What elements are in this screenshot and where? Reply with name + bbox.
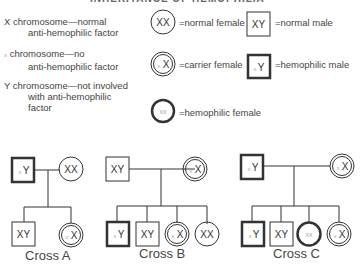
svg-text:XY: XY [252,19,266,30]
svg-text:x: x [249,233,252,239]
cross-c-son-hemophilic-male-icon: x Y [242,222,264,246]
svg-text:Y: Y [23,165,30,176]
svg-text:xx: xx [160,108,168,115]
svg-text:x: x [254,66,257,72]
svg-text:x: x [190,168,193,174]
legend-normal-female-icon: XX [151,10,175,34]
svg-text:X: X [71,230,78,241]
svg-text:Y: Y [253,229,260,240]
cross-b-son-hemophilic-male-icon: x Y [107,222,129,246]
svg-text:x: x [248,166,251,172]
svg-text:xx: xx [306,231,314,238]
cross-a-father-hemophilic-male-icon: x Y [12,158,34,182]
cross-b-daughter-carrier-female-icon: x X [165,222,189,246]
legend-normal-male-icon: XY [247,12,270,36]
cross-c-pedigree: x Y x X x Y XY xx [241,154,354,246]
svg-text:Y: Y [258,62,265,73]
svg-text:X: X [177,229,184,240]
cross-c-label: Cross C [273,246,320,261]
legend-hemophilic-female-icon: xx [152,100,174,122]
cross-b-label: Cross B [139,246,185,261]
svg-text:XY: XY [275,229,289,240]
svg-text:x: x [19,169,22,175]
cross-a-son-normal-male-icon: XY [12,222,35,246]
svg-text:x: x [158,63,161,69]
cross-c-son-normal-male-icon: XY [270,222,293,246]
cross-b-father-normal-male-icon: XY [106,157,129,181]
cross-a-pedigree: x Y XX XY x X [12,157,83,247]
cross-b-daughter-normal-female-icon: XX [195,222,219,246]
svg-text:x: x [334,233,337,239]
svg-text:X: X [163,59,170,70]
svg-text:x: x [114,233,117,239]
svg-text:x: x [66,234,69,240]
pedigree-diagram: XX XY x X x Y xx [0,0,360,265]
svg-text:XY: XY [17,229,31,240]
svg-text:XY: XY [141,229,155,240]
svg-text:x: x [172,233,175,239]
svg-text:XX: XX [156,17,170,28]
svg-text:X: X [195,164,202,175]
svg-text:Y: Y [252,162,259,173]
svg-text:XX: XX [200,229,214,240]
cross-c-father-hemophilic-male-icon: x Y [241,155,263,179]
cross-a-daughter-carrier-female-icon: x X [59,223,83,247]
cross-b-pedigree: XY x X x Y XY x X [106,157,219,246]
cross-c-daughter-carrier-female-icon: x X [327,222,351,246]
svg-text:Y: Y [118,229,125,240]
legend-hemophilic-male-icon: x Y [248,55,270,78]
svg-text:XX: XX [64,164,78,175]
cross-c-daughter-hemophilic-female-icon: xx [298,223,321,246]
svg-text:X: X [339,229,346,240]
legend-carrier-female-icon: x X [151,52,175,76]
svg-text:x: x [337,165,340,171]
cross-a-mother-normal-female-icon: XX [59,157,83,181]
svg-text:X: X [342,161,349,172]
cross-b-son-normal-male-icon: XY [136,222,159,246]
cross-a-label: Cross A [25,248,71,263]
cross-c-mother-carrier-female-icon: x X [330,154,354,178]
svg-text:XY: XY [111,164,125,175]
